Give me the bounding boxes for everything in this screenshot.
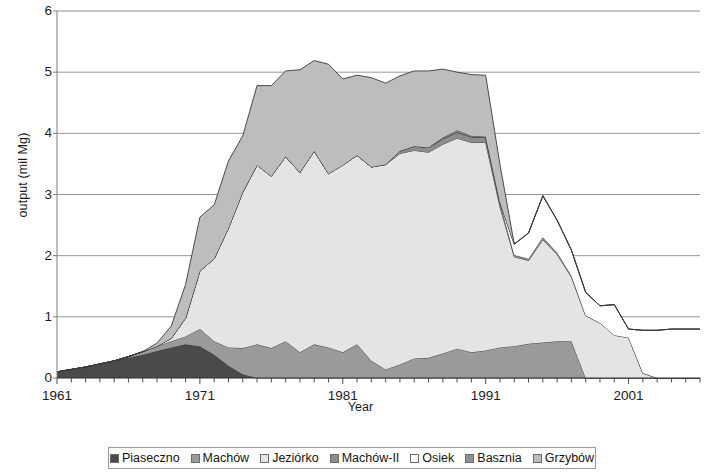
legend-item[interactable]: Grzybów: [533, 452, 594, 465]
legend-swatch-icon: [260, 454, 269, 463]
legend-swatch-icon: [191, 454, 200, 463]
legend-label: Machów: [203, 452, 250, 465]
legend-item[interactable]: Osiek: [410, 452, 454, 465]
legend-item[interactable]: Machów: [191, 452, 250, 465]
legend-swatch-icon: [465, 454, 474, 463]
legend-swatch-icon: [533, 454, 542, 463]
x-axis-title: Year: [0, 400, 705, 414]
series-area-jezi-rko: [57, 138, 700, 378]
series-areas: [57, 61, 700, 378]
chart-legend: PiasecznoMachówJeziórkoMachów-IIOsiekBas…: [108, 447, 596, 469]
stacked-area-chart: output (mil Mg) 0123456 1961197119811991…: [0, 0, 705, 475]
legend-item[interactable]: Machów-II: [330, 452, 400, 465]
legend-item[interactable]: Jeziórko: [260, 452, 319, 465]
legend-item[interactable]: Piaseczno: [110, 452, 180, 465]
plot-area: [0, 0, 705, 400]
legend-swatch-icon: [110, 454, 119, 463]
legend-label: Osiek: [422, 452, 454, 465]
legend-swatch-icon: [330, 454, 339, 463]
legend-label: Grzybów: [545, 452, 594, 465]
legend-label: Piaseczno: [122, 452, 180, 465]
legend-label: Basznia: [477, 452, 521, 465]
legend-label: Jeziórko: [272, 452, 319, 465]
legend-label: Machów-II: [342, 452, 400, 465]
legend-swatch-icon: [410, 454, 419, 463]
x-axis-title-text: Year: [348, 400, 373, 414]
legend-item[interactable]: Basznia: [465, 452, 521, 465]
